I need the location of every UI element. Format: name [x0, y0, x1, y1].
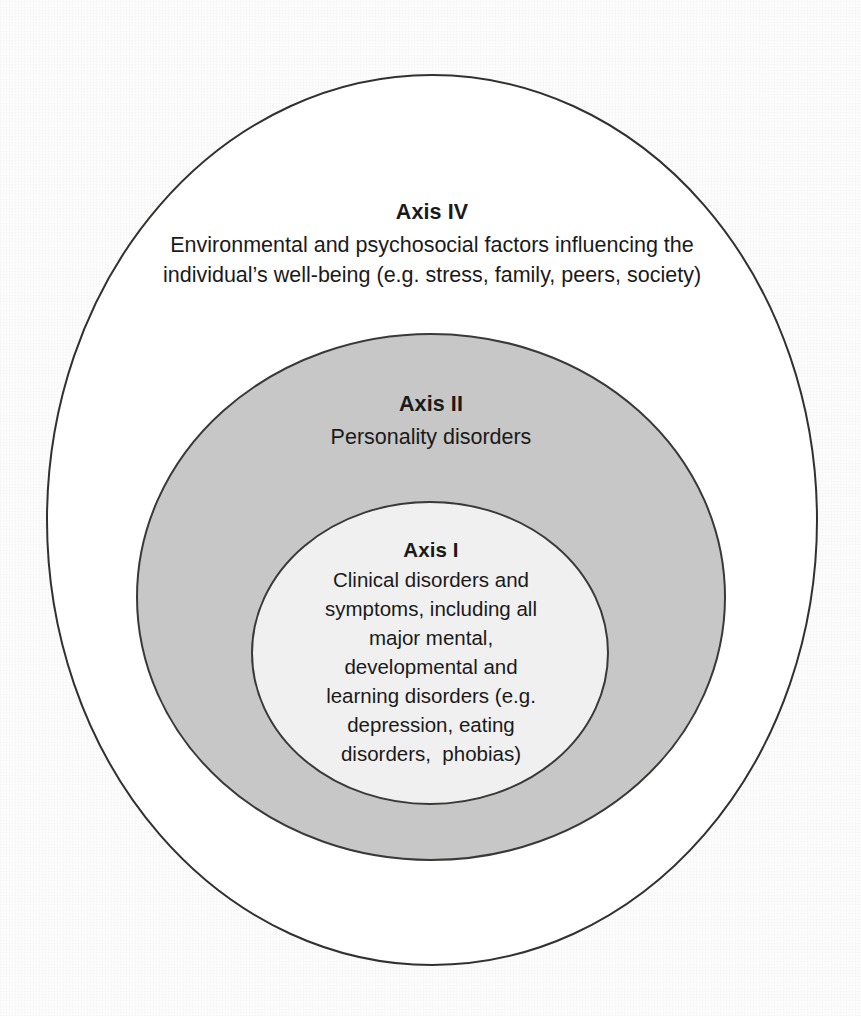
axis-i-body-line: Clinical disorders and [262, 565, 600, 594]
axis-i-body-line: depression, eating [262, 710, 600, 739]
axis-i-body-line: learning disorders (e.g. [262, 681, 600, 710]
axis-iv-body: Environmental and psychosocial factors i… [96, 230, 768, 290]
axis-iv-title: Axis IV [96, 197, 768, 227]
axis-i-body-line: major mental, [262, 623, 600, 652]
axis-ii-title: Axis II [231, 389, 631, 419]
axis-i-body-line: disorders, phobias) [262, 739, 600, 768]
axis-i-body-line: symptoms, including all [262, 594, 600, 623]
axis-iv-body-line: individual’s well-being (e.g. stress, fa… [96, 260, 768, 290]
axis-i-label-block: Axis I Clinical disorders and symptoms, … [262, 535, 600, 768]
axis-iv-body-line: Environmental and psychosocial factors i… [96, 230, 768, 260]
axis-ii-body-line: Personality disorders [231, 422, 631, 452]
multiaxial-diagram: Axis IV Environmental and psychosocial f… [0, 0, 861, 1016]
axis-i-body-line: developmental and [262, 652, 600, 681]
axis-i-title: Axis I [262, 535, 600, 564]
axis-ii-label-block: Axis II Personality disorders [231, 389, 631, 452]
axis-iv-label-block: Axis IV Environmental and psychosocial f… [96, 197, 768, 290]
axis-ii-body: Personality disorders [231, 422, 631, 452]
axis-i-body: Clinical disorders and symptoms, includi… [262, 565, 600, 768]
ellipse-rings-svg [0, 0, 861, 1016]
